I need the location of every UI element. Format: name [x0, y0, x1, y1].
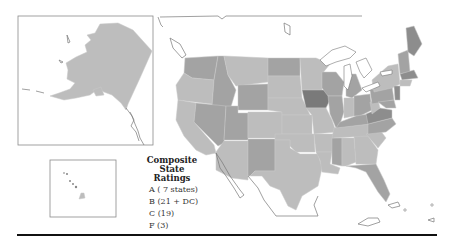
state-indiana	[344, 98, 354, 118]
canada-border	[160, 16, 362, 19]
swatch-c	[134, 209, 145, 218]
state-kansas	[282, 115, 312, 134]
legend-item-f: F (3)	[134, 220, 244, 231]
state-maine	[406, 26, 422, 56]
lake-huron	[356, 58, 372, 78]
legend-item-a: A ( 7 states)	[134, 184, 244, 195]
state-arkansas	[314, 134, 334, 152]
hawaii-inset	[50, 160, 116, 217]
legend: Composite State Ratings A ( 7 states) B …	[134, 156, 244, 231]
legend-title: Composite State Ratings	[134, 156, 210, 183]
state-connecticut-ri	[400, 80, 412, 86]
state-wyoming	[238, 84, 268, 110]
state-south-dakota	[268, 76, 302, 98]
state-florida	[346, 164, 390, 202]
swatch-b	[134, 197, 145, 206]
bottom-rule	[17, 234, 437, 236]
state-alabama	[342, 138, 356, 166]
state-vermont-nh	[398, 50, 410, 74]
swatch-a	[134, 185, 145, 194]
state-new-mexico	[248, 139, 275, 176]
swatch-f	[134, 221, 145, 230]
state-new-jersey	[394, 86, 400, 100]
lake-superior	[320, 46, 356, 66]
alaska-inset	[18, 16, 153, 145]
cuba-outline	[358, 218, 380, 226]
legend-item-c: C (19)	[134, 208, 244, 219]
state-mississippi	[332, 138, 342, 166]
state-utah	[224, 106, 248, 140]
state-wisconsin	[322, 72, 344, 96]
legend-item-b: B (21 + DC)	[134, 196, 244, 207]
state-north-dakota	[268, 58, 300, 76]
